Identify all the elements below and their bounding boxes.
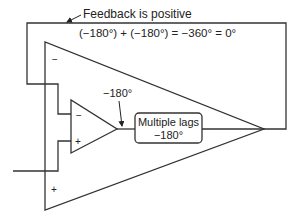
lag-block-phase: −180° xyxy=(154,129,183,141)
amp-output-phase-label: −180° xyxy=(103,87,132,99)
feedback-diagram: Feedback is positive (−180°) + (−180°) =… xyxy=(0,0,297,224)
phase-equation-label: (−180°) + (−180°) = −360° = 0° xyxy=(79,27,236,39)
small-amp-noninverting-sign: + xyxy=(75,136,81,147)
large-amp-noninverting-sign: + xyxy=(51,184,57,195)
feedback-label-arrow-icon xyxy=(67,15,81,22)
small-amp-inverting-sign: − xyxy=(76,110,82,121)
input-signal-path xyxy=(13,141,71,171)
large-amp-inverting-sign: − xyxy=(52,54,58,65)
feedback-title-label: Feedback is positive xyxy=(83,7,192,21)
lag-block-title: Multiple lags xyxy=(138,116,200,128)
phase-arrow-icon xyxy=(119,101,122,126)
